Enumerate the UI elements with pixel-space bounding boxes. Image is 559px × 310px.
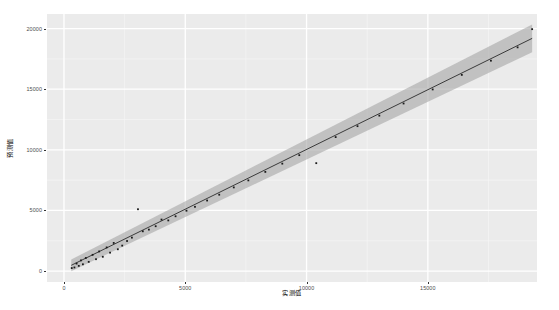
x-tick-mark	[185, 282, 186, 284]
y-tick-label: 15000	[0, 86, 42, 92]
data-point	[131, 237, 133, 239]
data-point	[233, 187, 235, 189]
data-point	[155, 225, 157, 227]
x-tick-label: 5000	[179, 285, 191, 291]
data-point	[142, 230, 144, 232]
data-point	[102, 256, 104, 258]
x-tick-mark	[64, 282, 65, 284]
data-point	[106, 247, 108, 249]
chart-figure: 实测值 预测值 05000100001500020000050001000015…	[0, 0, 559, 310]
data-point	[186, 210, 188, 212]
data-point	[71, 267, 73, 269]
data-point	[335, 136, 337, 138]
data-point	[95, 258, 97, 260]
data-point	[74, 267, 76, 269]
data-point	[194, 206, 196, 208]
data-point	[281, 163, 283, 165]
data-point	[315, 162, 317, 164]
y-tick-label: 0	[0, 268, 42, 274]
y-tick-mark	[44, 89, 46, 90]
data-point	[80, 260, 82, 262]
plot-canvas	[47, 14, 537, 282]
data-point	[206, 200, 208, 202]
y-tick-mark	[44, 271, 46, 272]
y-tick-label: 10000	[0, 147, 42, 153]
x-tick-mark	[428, 282, 429, 284]
data-point	[137, 208, 139, 210]
data-point	[247, 179, 249, 181]
data-point	[218, 194, 220, 196]
data-point	[167, 220, 169, 222]
data-point	[98, 251, 100, 253]
x-tick-label: 0	[62, 285, 65, 291]
plot-panel	[47, 14, 537, 282]
data-point	[113, 242, 115, 244]
data-point	[264, 171, 266, 173]
regression-line	[71, 38, 532, 265]
data-point	[109, 252, 111, 254]
data-point	[82, 263, 84, 265]
data-point	[432, 89, 434, 91]
data-point	[461, 74, 463, 76]
data-point	[175, 215, 177, 217]
data-point	[298, 154, 300, 156]
data-point	[378, 115, 380, 117]
x-tick-mark	[307, 282, 308, 284]
y-tick-label: 20000	[0, 26, 42, 32]
data-point	[78, 265, 80, 267]
data-point	[517, 46, 519, 48]
y-tick-mark	[44, 210, 46, 211]
y-tick-label: 5000	[0, 207, 42, 213]
data-point	[403, 103, 405, 105]
data-point	[148, 229, 150, 231]
x-axis-title: 实测值	[47, 288, 537, 297]
data-point	[121, 245, 123, 247]
data-point	[161, 219, 163, 221]
x-tick-label: 10000	[299, 285, 315, 291]
data-point	[357, 125, 359, 127]
data-point	[490, 60, 492, 62]
x-tick-label: 15000	[420, 285, 436, 291]
confidence-band	[71, 24, 532, 271]
y-tick-mark	[44, 29, 46, 30]
data-point	[531, 28, 533, 30]
data-point	[126, 240, 128, 242]
data-point	[88, 261, 90, 263]
y-tick-mark	[44, 150, 46, 151]
data-point	[85, 257, 87, 259]
data-point	[76, 263, 78, 265]
data-point	[92, 254, 94, 256]
data-point	[117, 248, 119, 250]
